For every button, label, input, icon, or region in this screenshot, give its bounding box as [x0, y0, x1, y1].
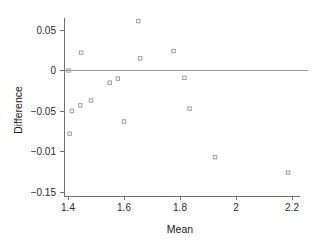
y-tick-label: −0.15 — [31, 187, 57, 198]
y-tick-label: −0.05 — [31, 106, 57, 117]
x-axis-title: Mean — [167, 223, 193, 235]
x-tick-label: 1.6 — [117, 202, 131, 213]
x-tick-label: 1.4 — [61, 202, 75, 213]
chart-figure: 0.050−0.05−0.01−0.15 1.41.61.822.2 Mean … — [0, 0, 318, 241]
x-tick-label: 2 — [233, 202, 239, 213]
y-tick-label: 0.05 — [37, 25, 57, 36]
plot-background — [0, 0, 318, 241]
scatter-plot: 0.050−0.05−0.01−0.15 1.41.61.822.2 Mean … — [0, 0, 318, 241]
y-tick-label: −0.01 — [31, 146, 57, 157]
y-axis-title: Difference — [12, 86, 24, 134]
y-tick-label: 0 — [50, 65, 56, 76]
x-tick-label: 2.2 — [285, 202, 299, 213]
x-tick-label: 1.8 — [173, 202, 187, 213]
